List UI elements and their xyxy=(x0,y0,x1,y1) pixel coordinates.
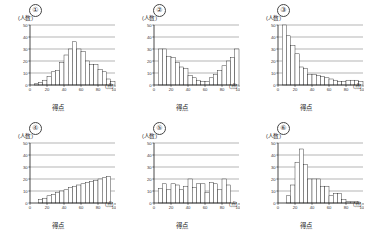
x-tick-label: 20 xyxy=(169,87,174,92)
histogram-bar xyxy=(43,80,47,85)
histogram-svg: 01020304050020406080100 xyxy=(20,139,116,213)
histogram-bar xyxy=(312,179,316,203)
histogram-bar xyxy=(299,149,303,203)
y-tick-label: 10 xyxy=(147,189,152,194)
x-tick-label: 20 xyxy=(169,205,174,210)
x-tick-label: 0 xyxy=(277,87,280,92)
histogram-bar xyxy=(98,69,102,85)
histogram-bar xyxy=(98,179,102,203)
histogram-bar xyxy=(231,57,235,85)
y-tick-label: 50 xyxy=(147,23,152,28)
x-tick-label: 20 xyxy=(45,87,50,92)
histogram-bar xyxy=(308,74,312,85)
histogram-bar xyxy=(197,80,201,85)
histogram-bar xyxy=(338,193,342,203)
histogram-bar xyxy=(295,54,299,85)
x-tick-label: 80 xyxy=(96,87,101,92)
y-tick-label: 40 xyxy=(23,153,28,158)
histogram-bar xyxy=(39,199,43,203)
histogram-bar xyxy=(73,42,77,85)
x-tick-label: 40 xyxy=(186,87,191,92)
histogram-bar xyxy=(201,184,205,203)
histogram-bar xyxy=(188,75,192,85)
histogram-bar xyxy=(201,81,205,85)
histogram-bar xyxy=(163,184,167,203)
y-tick-label: 30 xyxy=(147,47,152,52)
y-tick-label: 20 xyxy=(23,59,28,64)
histogram-bar xyxy=(64,55,68,85)
plot-area: 01020304050020406080100 xyxy=(144,21,240,95)
x-tick-label: 0 xyxy=(29,87,32,92)
histogram-bar xyxy=(60,191,64,203)
histogram-bar xyxy=(94,180,98,203)
histogram-bar xyxy=(316,179,320,203)
histogram-bar xyxy=(304,68,308,85)
histogram-bar xyxy=(56,71,60,85)
histogram-bar xyxy=(205,81,209,85)
histogram-svg: 01020304050020406080100 xyxy=(144,21,240,95)
histogram-bar xyxy=(90,181,94,203)
x-axis-unit-label: (点) xyxy=(353,82,361,89)
y-tick-label: 40 xyxy=(147,153,152,158)
histogram-bar xyxy=(209,78,213,85)
histogram-bar xyxy=(291,45,295,85)
histogram-bar xyxy=(51,195,55,203)
x-axis-unit-label: (点) xyxy=(229,82,237,89)
x-axis-unit-label: (点) xyxy=(353,200,361,207)
x-tick-label: 60 xyxy=(203,205,208,210)
histogram-bar xyxy=(205,192,209,203)
histogram-bar xyxy=(175,62,179,85)
y-tick-label: 30 xyxy=(23,47,28,52)
histogram-bar xyxy=(291,185,295,203)
x-tick-label: 40 xyxy=(310,205,315,210)
histogram-bar xyxy=(192,187,196,203)
x-tick-label: 20 xyxy=(45,205,50,210)
histogram-bar xyxy=(329,79,333,85)
x-tick-label: 0 xyxy=(277,205,280,210)
x-tick-label: 40 xyxy=(62,205,67,210)
y-tick-label: 0 xyxy=(273,83,276,88)
y-tick-label: 0 xyxy=(273,201,276,206)
y-tick-label: 10 xyxy=(147,71,152,76)
x-tick-label: 0 xyxy=(153,205,156,210)
histogram-grid: ①(人数)01020304050020406080100(点)得点②(人数)01… xyxy=(0,0,372,237)
histogram-bar xyxy=(321,77,325,85)
y-tick-label: 20 xyxy=(147,59,152,64)
histogram-svg: 01020304050020406080100 xyxy=(144,139,240,213)
x-tick-label: 60 xyxy=(79,205,84,210)
histogram-svg: 01020304050020406080100 xyxy=(20,21,116,95)
histogram-bar xyxy=(342,81,346,85)
histogram-svg: 01020304050020406080100 xyxy=(268,139,364,213)
y-tick-label: 30 xyxy=(271,165,276,170)
histogram-bar xyxy=(188,179,192,203)
y-tick-label: 50 xyxy=(271,23,276,28)
panel-6: ⑥(人数)01020304050020406080100(点)得点 xyxy=(248,118,372,237)
histogram-bar xyxy=(218,190,222,203)
histogram-bar xyxy=(218,71,222,85)
plot-area: 01020304050020406080100 xyxy=(20,21,116,95)
y-tick-label: 10 xyxy=(271,71,276,76)
x-tick-label: 40 xyxy=(62,87,67,92)
histogram-bar xyxy=(158,189,162,203)
y-tick-label: 20 xyxy=(147,177,152,182)
histogram-bar xyxy=(180,190,184,203)
histogram-bar xyxy=(180,67,184,85)
histogram-bar xyxy=(81,184,85,203)
x-axis-title: 得点 xyxy=(52,103,64,112)
histogram-bar xyxy=(304,165,308,203)
panel-3: ③(人数)01020304050020406080100(点)得点 xyxy=(248,0,372,118)
x-tick-label: 80 xyxy=(344,87,349,92)
histogram-bar xyxy=(81,51,85,85)
histogram-bar xyxy=(192,78,196,85)
y-tick-label: 40 xyxy=(271,153,276,158)
y-tick-label: 30 xyxy=(23,165,28,170)
y-tick-label: 0 xyxy=(149,83,152,88)
x-tick-label: 80 xyxy=(220,205,225,210)
plot-area: 01020304050020406080100 xyxy=(144,139,240,213)
histogram-bar xyxy=(312,74,316,85)
x-tick-label: 0 xyxy=(29,205,32,210)
histogram-bar xyxy=(77,185,81,203)
x-tick-label: 20 xyxy=(293,87,298,92)
histogram-bar xyxy=(333,80,337,85)
x-tick-label: 20 xyxy=(293,205,298,210)
